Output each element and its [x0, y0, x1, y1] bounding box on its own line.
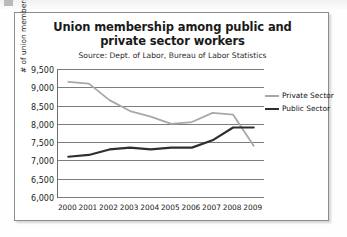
- y-axis-tick-label: 7,000: [31, 157, 54, 166]
- gridline: 6,000: [58, 197, 264, 198]
- y-axis-tick-label: 8,500: [31, 102, 54, 111]
- legend-line-icon-public: [265, 108, 279, 110]
- y-axis-tick-label: 8,000: [31, 120, 54, 129]
- chart-title: Union membership among public and privat…: [31, 21, 314, 48]
- x-axis-tick-label: 2002: [99, 203, 118, 212]
- y-axis-tick-label: 6,500: [31, 175, 54, 184]
- x-axis-tick-label: 2009: [243, 203, 262, 212]
- y-axis-title: # of union members (thousands): [19, 0, 28, 73]
- scan-artifact-mark: [4, 0, 13, 6]
- x-axis-tick-label: 2000: [58, 203, 77, 212]
- series-line: [68, 128, 253, 157]
- x-axis-labels: 2000200120022003200420052006200720082009: [57, 203, 263, 215]
- legend-line-icon-private: [265, 95, 279, 97]
- y-axis-tick-label: 6,000: [31, 194, 54, 203]
- x-axis-tick-label: 2008: [223, 203, 242, 212]
- y-axis-tick-label: 9,500: [31, 66, 54, 75]
- y-axis-tick-label: 7,500: [31, 139, 54, 148]
- chart-screenshot: Union membership among public and privat…: [0, 0, 347, 237]
- x-axis-tick-label: 2003: [120, 203, 139, 212]
- series-lines: [58, 69, 264, 197]
- x-axis-tick-label: 2006: [181, 203, 200, 212]
- x-axis-tick-label: 2005: [161, 203, 180, 212]
- chart-card: Union membership among public and privat…: [14, 12, 329, 221]
- chart-subtitle: Source: Dept. of Labor, Bureau of Labor …: [31, 51, 314, 60]
- legend-item-public: Public Sector: [265, 102, 327, 115]
- x-axis-tick-label: 2007: [202, 203, 221, 212]
- legend-label-public: Public Sector: [282, 104, 330, 113]
- plot-area: 9,5009,0008,5008,0007,5007,0006,5006,000: [57, 69, 264, 198]
- scan-artifact: [0, 0, 347, 9]
- y-axis-tick-label: 9,000: [31, 84, 54, 93]
- x-axis-tick-label: 2001: [78, 203, 97, 212]
- chart-legend: Private Sector Public Sector: [265, 89, 327, 115]
- x-axis-tick-label: 2004: [140, 203, 159, 212]
- series-line: [68, 82, 253, 146]
- legend-label-private: Private Sector: [282, 91, 334, 100]
- legend-item-private: Private Sector: [265, 89, 327, 102]
